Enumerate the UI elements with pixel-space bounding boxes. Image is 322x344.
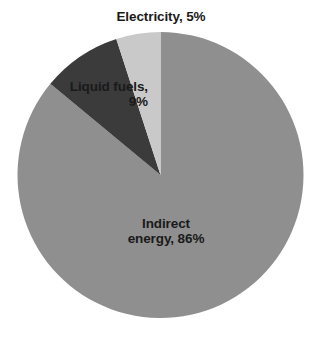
pie-label-liquid-fuels-line2: 9%	[129, 94, 148, 109]
pie-label-indirect-energy-line1: Indirect	[142, 216, 190, 231]
pie-label-liquid-fuels-line1: Liquid fuels,	[70, 79, 148, 94]
pie-label-electricity: Electricity, 5%	[0, 9, 322, 24]
pie-label-indirect-energy: Indirectenergy, 86%	[68, 216, 264, 246]
pie-chart-graphic	[0, 0, 322, 344]
pie-label-liquid-fuels: Liquid fuels,9%	[0, 79, 148, 109]
pie-label-indirect-energy-line2: energy, 86%	[128, 231, 205, 246]
pie-chart-figure: Electricity, 5% Liquid fuels,9% Indirect…	[0, 0, 322, 344]
